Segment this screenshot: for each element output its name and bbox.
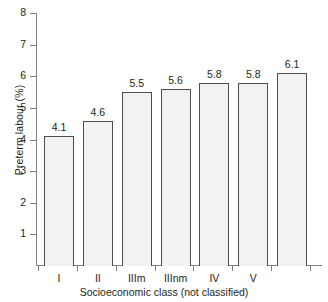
x-tick-mark bbox=[77, 266, 78, 271]
preterm-labour-bar-chart: Preterm labour (%) 12345678 4.14.65.55.6… bbox=[0, 0, 328, 302]
x-tick-mark bbox=[155, 266, 156, 271]
bar[interactable] bbox=[199, 83, 229, 266]
y-tick-label: 6 bbox=[2, 70, 26, 80]
bar-value-label: 5.8 bbox=[230, 69, 276, 80]
bar-value-label: 6.1 bbox=[269, 59, 315, 70]
bar[interactable] bbox=[122, 92, 152, 266]
y-tick-label: 4 bbox=[2, 134, 26, 144]
y-tick-label: 5 bbox=[2, 102, 26, 112]
x-tick-mark bbox=[232, 266, 233, 271]
y-axis-title: Preterm labour (%) bbox=[13, 60, 25, 200]
x-tick-mark bbox=[116, 266, 117, 271]
y-tick-label: 1 bbox=[2, 228, 26, 238]
y-tick-label: 2 bbox=[2, 197, 26, 207]
x-tick-mark bbox=[193, 266, 194, 271]
x-tick-mark bbox=[38, 266, 39, 271]
bar[interactable] bbox=[161, 89, 191, 266]
bar[interactable] bbox=[277, 73, 307, 266]
y-tick-label: 8 bbox=[2, 7, 26, 17]
x-tick-mark bbox=[271, 266, 272, 271]
y-tick-label: 7 bbox=[2, 39, 26, 49]
y-tick-label: 3 bbox=[2, 165, 26, 175]
bar[interactable] bbox=[44, 136, 74, 266]
bar-value-label: 4.1 bbox=[36, 122, 82, 133]
x-tick-mark bbox=[310, 266, 311, 271]
bar[interactable] bbox=[83, 121, 113, 266]
bar-value-label: 4.6 bbox=[75, 107, 121, 118]
x-axis-title: Socioeconomic class (not classified) bbox=[0, 286, 328, 298]
bar[interactable] bbox=[238, 83, 268, 266]
plot-area: 4.14.65.55.65.85.86.1 bbox=[36, 13, 322, 266]
x-tick-label: V bbox=[229, 272, 277, 284]
